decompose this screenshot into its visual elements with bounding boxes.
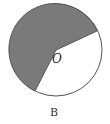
center-label: O <box>52 52 62 66</box>
caption-label: B <box>50 106 58 119</box>
pie-diagram: O B <box>0 0 110 124</box>
